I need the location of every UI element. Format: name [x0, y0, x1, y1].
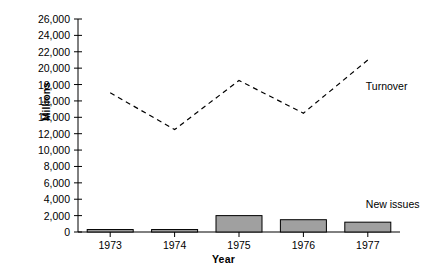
x-axis-tick-label: 1973 — [85, 240, 135, 251]
x-axis-tick-label: 1975 — [214, 240, 264, 251]
y-axis-tick-label: 8,000 — [24, 161, 70, 171]
y-axis-tick-label: 22,000 — [24, 47, 70, 57]
bar-new-issues-1977 — [345, 222, 391, 232]
y-axis-tick-labels: 26,00024,00022,00020,00018,00016,00014,0… — [24, 0, 70, 276]
y-axis-tick-label: 16,000 — [24, 96, 70, 106]
y-axis-tick-label: 2,000 — [24, 211, 70, 221]
bar-new-issues-1975 — [216, 216, 262, 232]
bar-new-issues-1974 — [152, 230, 198, 232]
y-axis-tick-label: 26,000 — [24, 14, 70, 24]
bar-series-new-issues — [87, 216, 391, 232]
y-axis-tick-label: 0 — [24, 227, 70, 237]
series-label-turnover: Turnover — [366, 80, 408, 92]
x-axis-title: Year — [0, 253, 447, 265]
line-series-turnover — [110, 60, 368, 130]
x-axis-tick-label: 1974 — [150, 240, 200, 251]
y-axis-tick-label: 24,000 — [24, 30, 70, 40]
y-axis-tick-label: 4,000 — [24, 194, 70, 204]
x-axis-tick-label: 1977 — [343, 240, 393, 251]
y-axis-tick-label: 10,000 — [24, 145, 70, 155]
chart-figure: Millions 26,00024,00022,00020,00018,0001… — [0, 0, 447, 276]
series-label-new-issues: New issues — [366, 198, 420, 210]
y-axis-tick-label: 18,000 — [24, 80, 70, 90]
y-axis-tick-label: 14,000 — [24, 112, 70, 122]
bar-new-issues-1976 — [280, 220, 326, 232]
x-axis-ticks — [110, 232, 368, 237]
y-axis-tick-label: 12,000 — [24, 129, 70, 139]
y-axis-tick-label: 6,000 — [24, 178, 70, 188]
y-axis-tick-label: 20,000 — [24, 63, 70, 73]
bar-new-issues-1973 — [87, 230, 133, 232]
turnover-dashed-line — [110, 60, 368, 130]
x-axis-tick-label: 1976 — [278, 240, 328, 251]
